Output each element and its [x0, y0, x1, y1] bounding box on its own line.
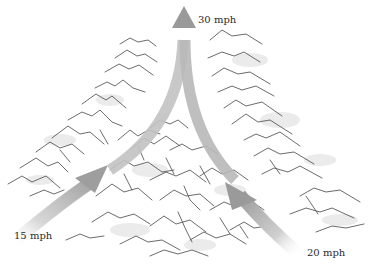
merge-left-branch [110, 40, 183, 170]
ridge [120, 236, 180, 250]
ridge [120, 38, 156, 46]
ridge [96, 184, 152, 200]
ridge [210, 30, 262, 44]
right-inflow-speed-label: 20 mph [307, 247, 345, 258]
ridge [262, 166, 322, 178]
slope [184, 186, 200, 210]
slope [124, 174, 132, 190]
mountain-wind-diagram [0, 0, 382, 272]
ridge [115, 50, 157, 62]
slope [220, 218, 230, 234]
ridge [20, 158, 68, 172]
ridge [66, 234, 104, 240]
merge-right-branch [185, 40, 235, 180]
ridge [150, 216, 206, 232]
left-inflow-speed-label: 15 mph [14, 230, 52, 241]
ridge [92, 212, 150, 224]
slope [178, 212, 192, 242]
outflow-arrowhead [172, 6, 196, 28]
wind-arrows [10, 6, 300, 255]
ridge [30, 190, 64, 196]
slope [240, 226, 248, 238]
slope [60, 150, 70, 162]
ridge [95, 80, 145, 92]
ridge [68, 110, 122, 126]
outflow-speed-label: 30 mph [198, 14, 236, 25]
ridge [212, 68, 270, 84]
ridge [105, 64, 153, 75]
slope [306, 196, 318, 214]
slope [270, 160, 280, 174]
ridge [218, 86, 274, 96]
